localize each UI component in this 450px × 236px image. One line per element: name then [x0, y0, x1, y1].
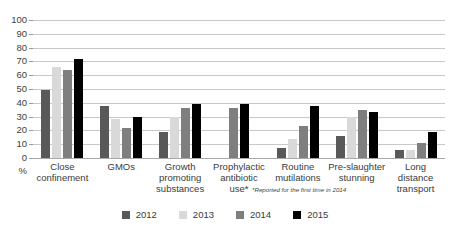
x-axis-category-labels: Close confinementGMOsGrowth promoting su…	[33, 161, 445, 201]
bar	[74, 59, 83, 158]
y-axis-tick-label: 30	[16, 112, 27, 122]
plot-area	[33, 20, 445, 158]
y-axis-tick-label: 70	[16, 57, 27, 67]
legend-label: 2014	[250, 210, 271, 220]
bar-group	[386, 20, 445, 158]
y-axis-tick-label: 90	[16, 29, 27, 39]
bar-group	[92, 20, 151, 158]
legend: 2012201320142015	[0, 210, 450, 220]
bar	[122, 128, 131, 158]
bar	[170, 117, 179, 158]
bar	[369, 112, 378, 158]
plot-wrapper: 1009080706050403020100% Close confinemen…	[0, 0, 450, 200]
bar	[428, 132, 437, 158]
legend-item[interactable]: 2013	[179, 210, 214, 220]
bar	[358, 110, 367, 158]
bar	[395, 150, 404, 158]
legend-label: 2013	[193, 210, 214, 220]
y-axis-tick-label: 10	[16, 139, 27, 149]
bar-chart: 1009080706050403020100% Close confinemen…	[0, 0, 450, 236]
bar-group	[210, 20, 269, 158]
bar	[159, 132, 168, 158]
legend-label: 2012	[136, 210, 157, 220]
y-axis-unit-label: %	[19, 166, 27, 176]
bar	[288, 139, 297, 158]
y-axis-tick-label: 100	[11, 15, 27, 25]
bar	[229, 108, 238, 158]
y-axis-tick-label: 20	[16, 126, 27, 136]
x-axis-label: Long distance transport	[380, 161, 450, 194]
bar	[299, 126, 308, 158]
bar	[240, 104, 249, 158]
bar	[192, 104, 201, 158]
bar	[63, 70, 72, 158]
axis-baseline	[33, 158, 445, 159]
legend-color-swatch	[236, 211, 244, 219]
bar-group	[268, 20, 327, 158]
bar	[52, 67, 61, 158]
bar-group	[151, 20, 210, 158]
legend-color-swatch	[122, 211, 130, 219]
bar-group	[33, 20, 92, 158]
footnote-annotation: *Reported for the first time in 2014	[252, 186, 346, 194]
bar	[336, 136, 345, 158]
bar-group	[327, 20, 386, 158]
bar	[277, 148, 286, 158]
legend-color-swatch	[293, 211, 301, 219]
y-axis-tick-label: 40	[16, 98, 27, 108]
bar	[310, 106, 319, 158]
legend-label: 2015	[307, 210, 328, 220]
legend-item[interactable]: 2015	[293, 210, 328, 220]
bar	[347, 117, 356, 158]
bar	[100, 106, 109, 158]
bar	[111, 119, 120, 158]
y-axis-tick-label: 50	[16, 84, 27, 94]
bar	[406, 150, 415, 158]
bar	[133, 117, 142, 158]
legend-item[interactable]: 2014	[236, 210, 271, 220]
bar	[41, 90, 50, 158]
legend-color-swatch	[179, 211, 187, 219]
y-axis-tick-label: 60	[16, 70, 27, 80]
y-axis-tick-mark	[29, 158, 33, 159]
y-axis: 1009080706050403020100%	[0, 0, 30, 175]
bar	[417, 143, 426, 158]
bar	[181, 108, 190, 158]
y-axis-tick-label: 80	[16, 43, 27, 53]
legend-item[interactable]: 2012	[122, 210, 157, 220]
